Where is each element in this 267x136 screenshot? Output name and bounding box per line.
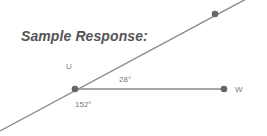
point-w [221, 86, 228, 93]
angle-label-152: 152° [75, 100, 92, 109]
point-top [212, 11, 219, 18]
sample-response-title: Sample Response: [21, 28, 148, 44]
angle-label-28: 28° [119, 75, 131, 84]
label-w: W [235, 85, 243, 94]
angle-diagram [0, 0, 267, 136]
point-u [72, 86, 79, 93]
transversal-line [0, 0, 248, 131]
label-u: U [66, 62, 72, 71]
